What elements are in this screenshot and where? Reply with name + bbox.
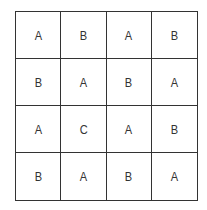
cell-label: A [80, 75, 87, 90]
grid-cell-r2-c4: A [152, 59, 197, 106]
grid-cell-r1-c3: A [107, 12, 152, 59]
cell-label: B [125, 169, 132, 184]
grid-cell-r3-c2: C [61, 106, 106, 153]
grid-cell-r1-c1: A [16, 12, 61, 59]
grid-cell-r3-c1: A [16, 106, 61, 153]
grid-cell-r4-c4: A [152, 153, 197, 200]
cell-label: B [171, 122, 178, 137]
cell-label: A [34, 122, 41, 137]
grid-cell-r2-c3: B [107, 59, 152, 106]
letter-grid: A B A B B A B A A C A B B A B A [15, 11, 198, 201]
grid-cell-r1-c2: B [61, 12, 106, 59]
cell-label: B [171, 28, 178, 43]
cell-label: C [79, 122, 87, 137]
grid-cell-r3-c3: A [107, 106, 152, 153]
cell-label: A [171, 75, 178, 90]
cell-label: A [80, 169, 87, 184]
cell-label: B [34, 75, 41, 90]
cell-label: B [125, 75, 132, 90]
cell-label: A [125, 28, 132, 43]
grid-cell-r2-c1: B [16, 59, 61, 106]
grid-cell-r1-c4: B [152, 12, 197, 59]
grid-cell-r4-c3: B [107, 153, 152, 200]
cell-label: A [171, 169, 178, 184]
cell-label: A [125, 122, 132, 137]
cell-label: B [80, 28, 87, 43]
grid-cell-r2-c2: A [61, 59, 106, 106]
grid-cell-r3-c4: B [152, 106, 197, 153]
cell-label: A [34, 28, 41, 43]
grid-cell-r4-c1: B [16, 153, 61, 200]
grid-cell-r4-c2: A [61, 153, 106, 200]
cell-label: B [34, 169, 41, 184]
